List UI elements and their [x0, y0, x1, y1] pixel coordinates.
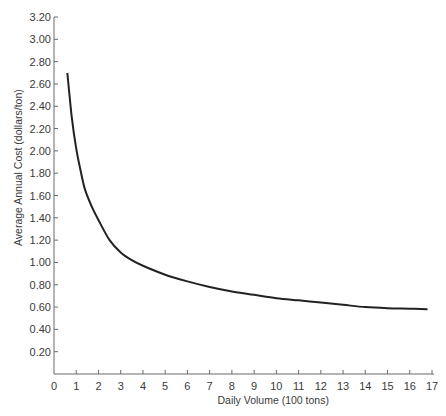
- x-tick-label: 12: [315, 380, 327, 392]
- x-tick-label: 8: [229, 380, 235, 392]
- x-tick-label: 14: [359, 380, 371, 392]
- x-tick-label: 13: [337, 380, 349, 392]
- x-tick-label: 3: [118, 380, 124, 392]
- x-tick-label: 7: [207, 380, 213, 392]
- x-tick-label: 16: [404, 380, 416, 392]
- x-tick-label: 11: [293, 380, 304, 392]
- x-axis-ticks: 01234567891011121314151617: [51, 370, 438, 392]
- x-tick-label: 6: [184, 380, 190, 392]
- x-tick-label: 4: [140, 380, 146, 392]
- y-tick-label: 1.00: [30, 256, 51, 268]
- y-tick-label: 0.20: [30, 346, 51, 358]
- series-layer: [67, 73, 427, 310]
- x-tick-label: 0: [51, 380, 57, 392]
- y-tick-label: 2.80: [30, 56, 51, 68]
- x-tick-label: 5: [162, 380, 168, 392]
- x-axis-label: Daily Volume (100 tons): [217, 394, 328, 406]
- y-tick-label: 0.80: [30, 279, 51, 291]
- y-tick-label: 2.20: [30, 123, 51, 135]
- y-tick-label: 2.60: [30, 78, 51, 90]
- x-tick-label: 9: [251, 380, 257, 392]
- y-tick-label: 3.20: [30, 11, 51, 23]
- y-tick-label: 2.40: [30, 100, 51, 112]
- y-tick-label: 2.00: [30, 145, 51, 157]
- y-tick-label: 1.80: [30, 167, 51, 179]
- y-tick-label: 1.40: [30, 212, 51, 224]
- x-tick-label: 2: [95, 380, 101, 392]
- y-tick-label: 0.60: [30, 301, 51, 313]
- y-tick-label: 3.00: [30, 33, 51, 45]
- series-line-0: [67, 73, 427, 310]
- cost-volume-chart: 0.200.400.600.801.001.201.401.601.802.00…: [0, 0, 446, 416]
- y-tick-label: 0.40: [30, 323, 51, 335]
- x-tick-label: 1: [73, 380, 79, 392]
- y-axis-label: Average Annual Cost (dollars/ton): [12, 89, 24, 246]
- x-tick-label: 10: [270, 380, 282, 392]
- x-tick-label: 15: [381, 380, 393, 392]
- y-tick-label: 1.60: [30, 190, 51, 202]
- y-tick-label: 1.20: [30, 234, 51, 246]
- x-tick-label: 17: [426, 380, 438, 392]
